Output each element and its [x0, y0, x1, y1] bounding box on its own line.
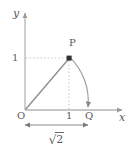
point-p-marker	[67, 56, 72, 61]
y-axis-label: y	[13, 8, 19, 19]
point-p-label: P	[69, 38, 76, 48]
x-tick-label-1: 1	[66, 111, 72, 121]
y-tick-label-1: 1	[12, 53, 18, 63]
point-q-label: Q	[85, 111, 93, 121]
geometry-figure: y x O 1 1 P Q √2	[0, 0, 135, 158]
radicand: 2	[55, 132, 64, 146]
segment-op	[26, 59, 70, 110]
sqrt2-dimension-label: √2	[0, 134, 113, 146]
radical-expression: √2	[49, 134, 65, 146]
rotation-arc	[70, 58, 88, 107]
x-axis-label: x	[119, 112, 125, 123]
origin-label: O	[17, 111, 25, 121]
